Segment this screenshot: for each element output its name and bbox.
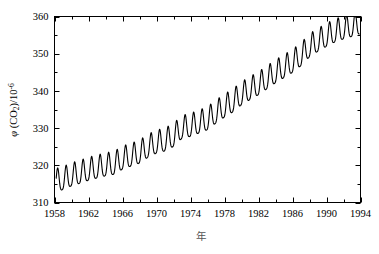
x-tick-label-1974: 1974: [180, 208, 202, 219]
x-tick-label-1958: 1958: [44, 208, 65, 219]
x-tick-label-1962: 1962: [78, 208, 99, 219]
chart-figure: 310320330340350360 195819621966197019741…: [0, 0, 379, 254]
y-tick-label-320: 320: [33, 160, 49, 171]
y-tick-label-310: 310: [33, 197, 49, 208]
y-tick-label-350: 350: [33, 48, 49, 59]
y-tick-label-340: 340: [33, 86, 49, 97]
x-tick-label-1970: 1970: [146, 208, 167, 219]
x-tick-label-1990: 1990: [316, 208, 337, 219]
co2-keeling-curve-chart: 310320330340350360 195819621966197019741…: [0, 0, 379, 254]
x-tick-label-1982: 1982: [248, 208, 269, 219]
x-tick-label-1978: 1978: [214, 208, 235, 219]
y-tick-label-330: 330: [33, 123, 49, 134]
x-tick-label-1986: 1986: [282, 208, 303, 219]
y-tick-label-360: 360: [33, 11, 49, 22]
x-tick-label-1994: 1994: [350, 208, 372, 219]
x-tick-label-1966: 1966: [112, 208, 133, 219]
x-axis-title: 年: [196, 230, 206, 242]
